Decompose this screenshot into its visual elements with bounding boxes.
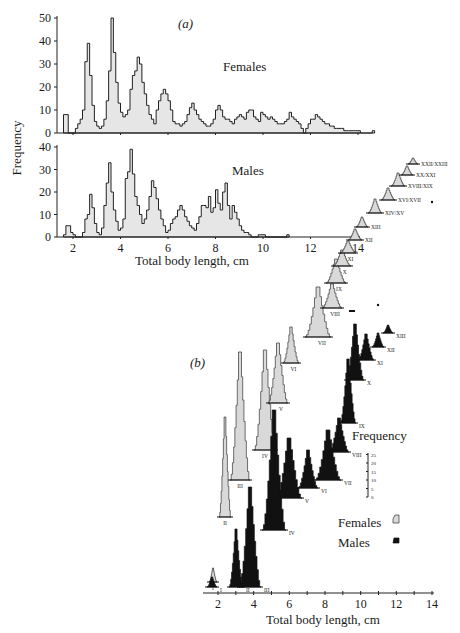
female-cohort-label: V xyxy=(279,406,283,412)
frequency-scale-tick-label: 0 xyxy=(371,495,374,500)
legend-female-swatch xyxy=(393,515,399,523)
male-cohort-label: VI xyxy=(321,488,327,494)
x-tick-label-b: 10 xyxy=(355,597,367,611)
y-tick-label: 0 xyxy=(45,126,51,140)
outlier-dot xyxy=(377,304,379,306)
female-cohort-label: XIV/XV xyxy=(385,210,404,216)
y-tick-label: 10 xyxy=(39,208,51,222)
x-tick-label-b: 12 xyxy=(390,597,402,611)
male-cohort-label: X xyxy=(367,380,371,386)
y-tick-label: 20 xyxy=(39,80,51,94)
x-tick-label-a: 2 xyxy=(70,241,76,255)
frequency-scale-title: Frequency xyxy=(352,428,407,444)
frequency-scale-tick-label: 20 xyxy=(371,461,377,466)
legend-males-label: Males xyxy=(338,535,370,551)
x-tick-label-b: 4 xyxy=(251,597,257,611)
male-cohort-label: XII xyxy=(387,347,395,353)
female-cohort-xii xyxy=(348,229,362,240)
legend-females-label: Females xyxy=(338,515,381,531)
male-cohort-label: II xyxy=(246,587,250,593)
female-cohort-label: XII xyxy=(365,237,373,243)
x-axis-label-b: Total body length, cm xyxy=(266,612,380,628)
males-label: Males xyxy=(232,163,264,179)
female-cohort-xiv-xv xyxy=(368,199,382,213)
x-axis-label-a: Total body length, cm xyxy=(135,253,249,269)
figure-canvas: 0102030405001020304024681012142468101214… xyxy=(0,0,460,633)
y-tick-label: 40 xyxy=(39,140,51,154)
frequency-scale-tick-label: 5 xyxy=(371,487,374,492)
male-cohort-label: VII xyxy=(344,480,352,486)
male-cohort-ii xyxy=(229,529,243,587)
frequency-scale-tick-label: 25 xyxy=(371,453,377,458)
female-cohort-ii xyxy=(219,417,231,517)
female-cohort-label: XVI/XVII xyxy=(398,197,421,203)
frequency-scale-tick-label: 15 xyxy=(371,470,377,475)
panel-a-label: (a) xyxy=(178,16,193,32)
panel-b-label: (b) xyxy=(190,355,205,371)
male-cohort-vi xyxy=(298,450,318,488)
male-cohort-label: XI xyxy=(377,360,383,366)
female-cohort-xiii xyxy=(356,217,368,227)
x-tick-label-b: 8 xyxy=(322,597,328,611)
y-tick-label: 10 xyxy=(39,103,51,117)
female-cohort-label: XXII/XXIII xyxy=(421,161,448,167)
y-axis-label: Frequency xyxy=(9,113,25,183)
female-cohort-label: X xyxy=(343,269,347,275)
male-cohort-label: XIII xyxy=(396,333,406,339)
x-tick-label-a: 12 xyxy=(305,241,317,255)
outlier-bar xyxy=(349,310,355,312)
female-cohort-iii xyxy=(230,352,250,480)
female-cohort-vii xyxy=(305,287,331,337)
female-cohort-label: IV xyxy=(262,453,268,459)
outlier-dot xyxy=(431,201,433,203)
male-cohort-label: I xyxy=(220,587,222,593)
y-tick-label: 40 xyxy=(39,34,51,48)
female-cohort-vi xyxy=(283,327,299,363)
y-tick-label: 30 xyxy=(39,163,51,177)
x-tick-label-b: 6 xyxy=(286,597,292,611)
male-cohort-label: VIII xyxy=(352,452,362,458)
male-cohort-label: III xyxy=(264,587,270,593)
male-cohort-label: IV xyxy=(289,530,295,536)
female-cohort-label: VIII xyxy=(330,311,340,317)
legend-male-swatch xyxy=(393,538,399,543)
female-cohort-xx-xxi xyxy=(401,166,413,175)
female-cohort-label: XIII xyxy=(371,224,381,230)
female-cohort-label: III xyxy=(237,483,243,489)
female-cohort-label: VI xyxy=(290,366,296,372)
female-cohort-xvi-xvii xyxy=(381,188,395,200)
x-tick-label-a: 10 xyxy=(257,241,269,255)
female-cohort-label: IX xyxy=(336,286,342,292)
y-tick-label: 0 xyxy=(45,230,51,244)
x-tick-label-b: 14 xyxy=(426,597,438,611)
male-cohort-label: V xyxy=(305,498,309,504)
females-label: Females xyxy=(223,59,266,75)
frequency-scale-tick-label: 10 xyxy=(371,478,377,483)
female-cohort-xxii-xxiii xyxy=(408,158,418,164)
male-cohort-xiii xyxy=(383,325,393,333)
female-cohort-label: II xyxy=(223,520,227,526)
female-cohort-label: XVIII/XIX xyxy=(408,183,433,189)
x-tick-label-a: 4 xyxy=(118,241,124,255)
female-cohort-label: VII xyxy=(318,340,326,346)
female-cohort-v xyxy=(268,343,288,403)
female-cohort-label: XX/XXI xyxy=(416,172,435,178)
x-tick-label-b: 2 xyxy=(215,597,221,611)
male-cohort-iii xyxy=(239,487,261,587)
females-histogram xyxy=(64,18,375,133)
y-tick-label: 30 xyxy=(39,57,51,71)
female-cohort-label: XI xyxy=(347,256,353,262)
y-tick-label: 50 xyxy=(39,11,51,25)
male-cohort-xii xyxy=(372,333,384,347)
y-tick-label: 20 xyxy=(39,185,51,199)
